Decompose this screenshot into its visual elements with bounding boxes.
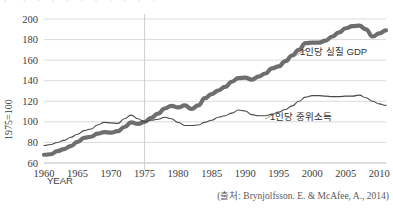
x-tick-1985: 1985	[201, 168, 222, 179]
y-tick-200: 200	[22, 14, 38, 25]
x-tick-1980: 1980	[168, 168, 189, 179]
y-axis-title: 1975=100	[3, 99, 14, 140]
y-tick-120: 120	[22, 96, 38, 107]
y-tick-80: 80	[28, 137, 39, 148]
cropped-header-glyphs: ⌐ ¬ ¬ ¬ ¬ ¬ ¬ ¬ ¬ ¬ ¬	[4, 0, 156, 6]
series-label-median-income: 1인당 중위소득	[270, 111, 332, 122]
x-axis-title: YEAR	[47, 175, 73, 186]
x-axis-tick-labels: 1960196519701975198019851990199520002005…	[34, 168, 390, 179]
series-line-median-income	[44, 95, 386, 145]
line-chart: 6080100120140160180200 19601965197019751…	[0, 0, 393, 214]
x-tick-2000: 2000	[302, 168, 323, 179]
source-citation: (출처: Brynjolfsson. E. & McAfee, A., 2014…	[217, 190, 389, 202]
y-axis-tick-labels: 6080100120140160180200	[22, 14, 38, 169]
x-tick-1995: 1995	[268, 168, 289, 179]
x-tick-1975: 1975	[134, 168, 155, 179]
chart-figure: ⌐ ¬ ¬ ¬ ¬ ¬ ¬ ¬ ¬ ¬ ¬ 608010012014016018…	[0, 0, 393, 214]
y-tick-180: 180	[22, 34, 38, 45]
x-tick-2010: 2010	[369, 168, 390, 179]
y-tick-160: 160	[22, 55, 38, 66]
y-tick-60: 60	[28, 158, 39, 169]
y-tick-140: 140	[22, 75, 38, 86]
x-tick-1990: 1990	[235, 168, 256, 179]
x-tick-2005: 2005	[335, 168, 356, 179]
y-tick-100: 100	[22, 116, 38, 127]
cropped-header-text: ⌐ ¬ ¬ ¬ ¬ ¬ ¬ ¬ ¬ ¬ ¬	[0, 0, 393, 9]
series-label-gdp: 1인당 실질 GDP	[300, 46, 367, 57]
x-tick-1970: 1970	[101, 168, 122, 179]
